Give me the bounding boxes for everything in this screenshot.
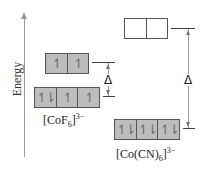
cocn6-formula-prefix: [Co(CN) [116, 147, 159, 161]
cocn6-delta-arrow-down-icon [186, 122, 190, 127]
energy-axis-label: Energy [10, 59, 24, 99]
cocn6-eg-orbital-2 [147, 19, 168, 38]
cocn6-formula-label: [Co(CN)6]3− [116, 146, 175, 163]
cof6-lower-level-line [103, 96, 115, 97]
cof6-delta-arrow-up-icon [106, 64, 110, 69]
cocn6-eg-orbitals [124, 18, 168, 39]
cocn6-t2g-orbital-3: ↿⇂ [158, 120, 179, 139]
cocn6-formula-charge: 3− [167, 146, 176, 155]
cocn6-t2g-orbitals: ↿⇂ ↿⇂ ↿⇂ [114, 119, 180, 140]
cof6-upper-level-line [92, 62, 115, 63]
cof6-t2g-orbital-1: ↿⇂ [35, 88, 57, 107]
cof6-formula-label: [CoF6]3− [43, 112, 84, 129]
cof6-delta-symbol: Δ [104, 74, 112, 86]
cocn6-t2g-orbital-2: ↿⇂ [137, 120, 159, 139]
cof6-delta-arrow-down-icon [106, 90, 110, 95]
cocn6-eg-orbital-1 [125, 19, 147, 38]
cocn6-t2g-orbital-1: ↿⇂ [115, 120, 137, 139]
cof6-t2g-orbital-3: ↿ [78, 88, 99, 107]
cocn6-delta-symbol: Δ [184, 74, 192, 86]
energy-axis-arrow-icon [21, 12, 27, 19]
cof6-formula-charge: 3− [76, 112, 85, 121]
cof6-eg-orbital-2: ↿ [68, 54, 89, 73]
cof6-t2g-orbitals: ↿⇂ ↿ ↿ [34, 87, 100, 108]
cof6-eg-orbitals: ↿ ↿ [45, 53, 89, 74]
cof6-eg-orbital-1: ↿ [46, 54, 68, 73]
cocn6-upper-level-line [171, 28, 195, 29]
cocn6-lower-level-line [183, 128, 195, 129]
cof6-formula-prefix: [CoF [43, 113, 68, 127]
cocn6-delta-arrow-up-icon [186, 30, 190, 35]
energy-axis [24, 16, 25, 157]
cof6-t2g-orbital-2: ↿ [57, 88, 79, 107]
